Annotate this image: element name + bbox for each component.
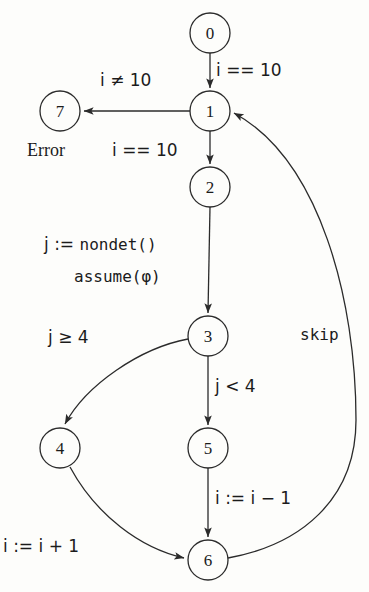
node-label-0: 0 [190, 25, 230, 42]
edge-3-to-4 [65, 339, 188, 424]
edge-label-i-inc: i := i + 1 [3, 538, 79, 556]
node-label-7: 7 [40, 103, 80, 120]
graph-canvas [0, 0, 369, 592]
error-label: Error [27, 141, 65, 160]
edge-2-to-3 [208, 207, 210, 313]
edge-label-assume: assume(φ) [74, 269, 161, 286]
edge-label-assign-j: j := nondet() [44, 236, 157, 254]
edge-4-to-6 [70, 467, 184, 558]
edge-label-j-ge-4: j ≥ 4 [48, 329, 89, 347]
node-label-5: 5 [188, 440, 228, 457]
edge-label-i-eq-10-mid: i == 10 [112, 142, 178, 160]
node-label-3: 3 [188, 328, 228, 345]
assign-j-call: nondet() [80, 235, 157, 254]
edge-label-skip: skip [300, 327, 339, 344]
node-label-4: 4 [40, 440, 80, 457]
assign-j-prefix: j := [44, 234, 74, 254]
node-label-1: 1 [190, 103, 230, 120]
edge-label-j-lt-4: j < 4 [215, 378, 256, 396]
edge-label-i-neq-10: i ≠ 10 [100, 72, 151, 90]
edge-label-i-eq-10-top: i == 10 [216, 62, 282, 80]
node-label-2: 2 [190, 179, 230, 196]
node-label-6: 6 [188, 552, 228, 569]
control-flow-graph: 0 1 2 3 4 5 6 7 i == 10 i ≠ 10 Error i =… [0, 0, 369, 592]
edge-label-i-dec: i := i − 1 [215, 490, 291, 508]
